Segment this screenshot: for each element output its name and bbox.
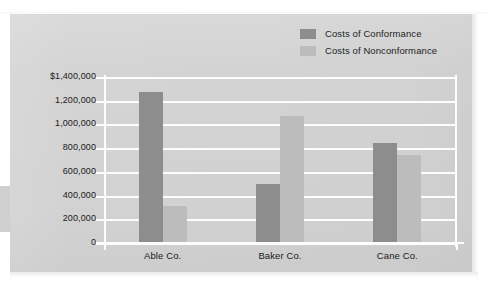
y-tick-mark xyxy=(96,124,104,126)
bar-nonconformance xyxy=(163,206,187,243)
x-axis-line xyxy=(96,242,464,244)
x-tick-label: Cane Co. xyxy=(357,250,437,261)
chart-figure: Costs of Conformance Costs of Nonconform… xyxy=(0,0,488,288)
y-tick-label: 600,000 xyxy=(63,166,96,176)
gridline xyxy=(104,77,456,79)
y-axis-line xyxy=(104,75,106,247)
y-tick-mark xyxy=(96,101,104,103)
bar-conformance xyxy=(139,92,163,243)
legend-item-nonconformance: Costs of Nonconformance xyxy=(300,43,437,58)
legend-item-conformance: Costs of Conformance xyxy=(300,26,437,41)
legend-label-conformance: Costs of Conformance xyxy=(325,28,422,39)
x-tick-mark xyxy=(456,244,458,250)
legend-swatch-conformance xyxy=(300,29,316,39)
x-tick-label: Baker Co. xyxy=(240,250,320,261)
chart-legend: Costs of Conformance Costs of Nonconform… xyxy=(300,26,437,60)
page-bottom-shadow xyxy=(10,272,478,278)
plot-right-border xyxy=(455,75,457,247)
y-tick-label: 1,000,000 xyxy=(55,118,96,128)
x-tick-mark xyxy=(104,244,106,250)
bar-conformance xyxy=(373,143,397,243)
y-tick-label: 1,200,000 xyxy=(55,95,96,105)
y-tick-label: $1,400,000 xyxy=(50,71,96,81)
y-tick-label: 400,000 xyxy=(63,190,96,200)
legend-label-nonconformance: Costs of Nonconformance xyxy=(325,45,437,56)
y-tick-mark xyxy=(96,219,104,221)
y-tick-label: 200,000 xyxy=(63,213,96,223)
bar-nonconformance xyxy=(397,155,421,243)
y-tick-mark xyxy=(96,196,104,198)
y-tick-mark xyxy=(96,172,104,174)
plot-area xyxy=(104,77,456,243)
x-tick-label: Able Co. xyxy=(123,250,203,261)
y-tick-mark xyxy=(96,77,104,79)
bar-nonconformance xyxy=(280,116,304,243)
y-tick-label: 800,000 xyxy=(63,142,96,152)
page-right-shadow xyxy=(472,14,478,272)
page-left-scrap xyxy=(0,186,10,232)
bar-conformance xyxy=(256,184,280,243)
y-tick-mark xyxy=(96,148,104,150)
legend-swatch-nonconformance xyxy=(300,46,316,56)
